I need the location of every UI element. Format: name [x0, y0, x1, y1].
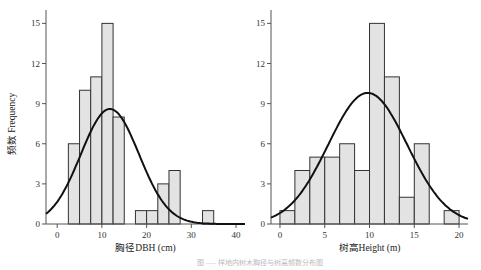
y-tick-label: 15 [31, 18, 41, 28]
y-tick-label: 9 [36, 99, 41, 109]
y-tick-label: 0 [261, 219, 266, 229]
histogram-bar [80, 90, 91, 224]
x-tick-label: 15 [410, 230, 420, 240]
x-tick-label: 40 [232, 230, 242, 240]
figure: 频数 Frequency 03691215010203040胸径DBH (cm)… [0, 0, 481, 270]
x-tick-label: 20 [142, 230, 152, 240]
figure-caption: 图 ‒‒‒ 样地内树木胸径与树高频数分布图 [197, 258, 323, 267]
y-tick-label: 9 [261, 99, 266, 109]
x-tick-label: 0 [55, 230, 60, 240]
y-tick-label: 15 [256, 18, 266, 28]
histogram-bar [384, 77, 399, 224]
x-tick-label: 20 [455, 230, 465, 240]
histogram-bar [68, 144, 79, 224]
y-tick-label: 3 [36, 179, 41, 189]
histogram-bar [399, 197, 414, 224]
y-tick-label: 3 [261, 179, 266, 189]
x-tick-label: 10 [97, 230, 107, 240]
histogram-bar [135, 211, 146, 224]
y-tick-label: 0 [36, 219, 41, 229]
histogram-bar [325, 157, 340, 224]
y-tick-label: 12 [256, 59, 265, 69]
histogram-bar [414, 144, 429, 224]
histogram-bar [355, 171, 370, 225]
x-tick-label: 30 [187, 230, 197, 240]
x-axis-title: 胸径DBH (cm) [115, 242, 175, 254]
histogram-bar [370, 23, 385, 224]
x-tick-label: 10 [365, 230, 375, 240]
histogram-bar [102, 23, 113, 224]
panel-dbh: 03691215010203040胸径DBH (cm) [31, 10, 245, 254]
histogram-bar [340, 144, 355, 224]
y-tick-label: 6 [261, 139, 266, 149]
histogram-bar [444, 211, 459, 224]
y-axis-title: 频数 Frequency [6, 93, 17, 156]
histogram-bar [113, 117, 124, 224]
histogram-bar [147, 211, 158, 224]
x-tick-label: 0 [278, 230, 283, 240]
y-tick-label: 12 [31, 59, 40, 69]
histogram-bar [203, 211, 214, 224]
panel-height: 0369121505101520树高Height (m) [256, 10, 468, 254]
y-tick-label: 6 [36, 139, 41, 149]
x-axis-title: 树高Height (m) [339, 242, 401, 254]
x-tick-label: 5 [322, 230, 327, 240]
histogram-bar [91, 77, 102, 224]
